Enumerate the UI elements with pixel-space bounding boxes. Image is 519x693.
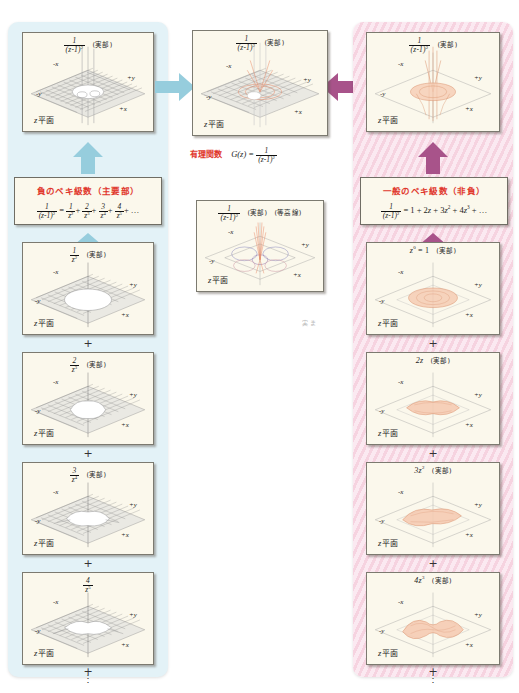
figure-right-main: 1(z-1)2 (実部) -x +y -y +x z平面: [366, 32, 500, 132]
axis-label-neg-x: -x: [398, 488, 403, 496]
axis-label-pos-y: +y: [474, 611, 482, 619]
plane-label: zz 平面平面: [34, 114, 54, 125]
figure-left-term-4: 4z5 -x +y -y +x z平面: [22, 572, 154, 665]
figure-right-term-1: z0 = 1 (実部) -x +y -y +x z平面: [366, 242, 500, 335]
axis-label-pos-x: +x: [465, 421, 473, 429]
axis-label-neg-x: -x: [228, 228, 233, 236]
axis-label-pos-x: +x: [294, 108, 302, 116]
plane-label: z平面: [378, 537, 398, 548]
plane-label: z平面: [208, 274, 228, 285]
axis-label-neg-x: -x: [398, 598, 403, 606]
axis-label-pos-y: +y: [129, 391, 137, 399]
axis-label-pos-y: +y: [129, 611, 137, 619]
plus-separator: +: [413, 447, 453, 460]
arrow-up-magenta: [416, 140, 450, 174]
axis-label-pos-y: +y: [127, 74, 135, 82]
axis-label-neg-y: -y: [380, 90, 385, 98]
axis-label-neg-y: -y: [35, 297, 40, 305]
diagram-canvas: 1(z-1)2 (実部) -x: [0, 0, 519, 693]
axis-label-pos-y: +y: [474, 501, 482, 509]
axis-label-neg-x: -x: [53, 60, 58, 68]
axis-label-neg-y: -y: [209, 257, 214, 265]
axis-label-neg-y: -y: [206, 93, 211, 101]
axis-label-pos-x: +x: [121, 311, 129, 319]
plus-separator: +: [413, 557, 453, 570]
left-series-formula-box: 負のベキ級数（主要部） 1(z-1)2 = 1z2+ 2z3+ 3z4+ 4z5…: [14, 177, 162, 225]
axis-label-neg-x: -x: [398, 378, 403, 386]
axis-label-pos-y: +y: [303, 76, 311, 84]
axis-label-pos-x: +x: [465, 531, 473, 539]
plus-separator: +: [68, 447, 108, 460]
figure-right-term-2: 2z (実部) -x +y -y +x z平面: [366, 352, 500, 445]
arrow-up-blue: [71, 140, 105, 174]
axis-label-pos-y: +y: [474, 281, 482, 289]
ellipsis-separator: ⋮: [68, 674, 108, 683]
axis-label-neg-y: -y: [379, 407, 384, 415]
axis-label-neg-y: -y: [35, 627, 40, 635]
left-series-equation: 1(z-1)2 = 1z2+ 2z3+ 3z4+ 4z5+ …: [15, 203, 161, 219]
right-series-equation: 1(z-1)2 = 1 + 2z + 3z2 + 4z3 + …: [361, 203, 507, 219]
plane-label: z平面: [378, 427, 398, 438]
axis-label-pos-x: +x: [465, 641, 473, 649]
axis-label-neg-y: -y: [379, 517, 384, 525]
axis-label-pos-x: +x: [293, 271, 301, 279]
right-series-title: 一般のベキ級数（非負）: [361, 184, 507, 196]
plane-label: z平面: [34, 317, 54, 328]
figure-left-term-1: 1z2 (実部) -x +y -y +x z平面: [22, 242, 154, 335]
axis-label-pos-y: +y: [474, 74, 482, 82]
rational-function-caption: 有理関数 G(z) = 1(z-1)2: [190, 147, 277, 163]
axis-label-neg-x: -x: [226, 62, 231, 70]
plus-separator: +: [68, 557, 108, 570]
axis-label-neg-x: -x: [53, 268, 58, 276]
axis-label-neg-y: -y: [379, 297, 384, 305]
axis-label-pos-x: +x: [121, 641, 129, 649]
axis-label-pos-y: +y: [129, 281, 137, 289]
axis-label-neg-x: -x: [53, 488, 58, 496]
plane-label: z平面: [34, 427, 54, 438]
axis-label-neg-y: -y: [35, 517, 40, 525]
plane-label: z平面: [378, 647, 398, 658]
figure-right-term-3: 3z2 (実部) -x +y -y +x z平面: [366, 462, 500, 555]
figure-center-contour: 1(z-1)2 (実部) (等高線) -x +y -y: [196, 200, 324, 292]
plane-label: z平面: [34, 647, 54, 658]
figure-left-main: 1(z-1)2 (実部) -x: [22, 32, 154, 132]
plane-label: z平面: [378, 114, 398, 125]
axis-label-neg-x: -x: [398, 60, 403, 68]
axis-label-neg-y: -y: [36, 90, 41, 98]
figure-center-main: 1(z-1)2 (実部) -x: [192, 30, 328, 136]
arrow-right-blue: [155, 72, 195, 102]
rational-function-label: 有理関数: [190, 150, 222, 159]
figure-left-term-2: 2z3 (実部) -x +y -y +x z平面: [22, 352, 154, 445]
left-series-title: 負のベキ級数（主要部）: [15, 184, 161, 196]
plane-label: z平面: [34, 537, 54, 548]
rational-function-expression: G(z) = 1(z-1)2: [231, 149, 277, 159]
axis-label-pos-x: +x: [121, 531, 129, 539]
axis-label-pos-y: +y: [129, 501, 137, 509]
plane-label: z平面: [378, 317, 398, 328]
faint-artifact-text: 実 ま: [302, 318, 316, 327]
right-series-formula-box: 一般のベキ級数（非負） 1(z-1)2 = 1 + 2z + 3z2 + 4z3…: [360, 177, 508, 225]
axis-label-pos-y: +y: [301, 241, 309, 249]
axis-label-neg-y: -y: [35, 407, 40, 415]
ellipsis-separator: ⋮: [413, 674, 453, 683]
figure-right-term-4: 4z3 (実部) -x +y -y +x z平面: [366, 572, 500, 665]
figure-left-term-3: 3z4 (実部) -x +y -y +x z平面: [22, 462, 154, 555]
axis-label-neg-x: -x: [53, 378, 58, 386]
axis-label-pos-y: +y: [474, 391, 482, 399]
axis-label-pos-x: +x: [121, 421, 129, 429]
axis-label-pos-x: +x: [465, 105, 473, 113]
axis-label-neg-x: -x: [398, 268, 403, 276]
axis-label-neg-x: -x: [53, 598, 58, 606]
axis-label-neg-y: -y: [379, 627, 384, 635]
axis-label-pos-x: +x: [465, 311, 473, 319]
plus-separator: +: [413, 337, 453, 350]
plus-separator: +: [68, 337, 108, 350]
axis-label-pos-x: +x: [119, 105, 127, 113]
plane-label: z平面: [204, 118, 224, 129]
